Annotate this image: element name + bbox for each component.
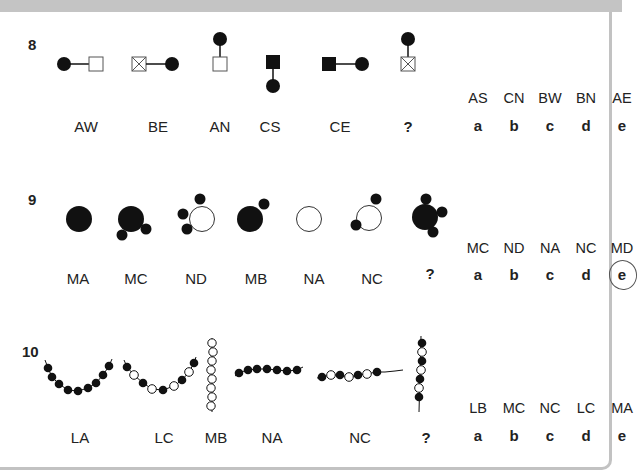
answer-code: CN xyxy=(496,90,532,106)
answer-option-b[interactable]: b xyxy=(496,266,532,283)
figure-label: LA xyxy=(60,429,100,446)
answer-code: LC xyxy=(568,400,604,416)
figure-mc xyxy=(110,200,160,245)
answer-code: MA xyxy=(604,400,640,416)
figure-label-question-mark: ? xyxy=(388,118,428,135)
figure-mb-chain xyxy=(202,335,222,415)
figure-nd xyxy=(172,192,222,242)
answer-option-a[interactable]: a xyxy=(460,266,496,283)
figure-mb xyxy=(232,195,282,240)
answer-option-d[interactable]: d xyxy=(568,427,604,444)
figure-label: NA xyxy=(294,270,334,287)
question-number-9: 9 xyxy=(28,191,36,208)
answer-option-c[interactable]: c xyxy=(532,117,568,134)
question-number-8: 8 xyxy=(28,36,36,53)
figure-cs xyxy=(261,53,285,98)
answer-option-e[interactable]: e xyxy=(604,427,640,444)
answer-code: BN xyxy=(568,90,604,106)
figure-be xyxy=(128,55,188,75)
answer-code: MC xyxy=(496,400,532,416)
figure-label-question-mark: ? xyxy=(406,429,446,446)
figure-label: BE xyxy=(138,118,178,135)
answer-option-b[interactable]: b xyxy=(496,117,532,134)
answer-codes-9: MC ND NA NC MD xyxy=(460,240,640,256)
answer-code: MD xyxy=(604,240,640,256)
figure-label: AW xyxy=(66,118,106,135)
answer-codes-8: AS CN BW BN AE xyxy=(460,90,640,106)
answer-option-a[interactable]: a xyxy=(460,427,496,444)
figure-nc xyxy=(346,192,396,242)
figure-an xyxy=(208,30,232,75)
figure-label: ND xyxy=(176,270,216,287)
figure-lc xyxy=(120,355,200,400)
top-border xyxy=(0,0,622,12)
answer-code: AE xyxy=(604,90,640,106)
figure-na xyxy=(290,200,330,240)
answer-code: ND xyxy=(496,240,532,256)
answer-code: AS xyxy=(460,90,496,106)
answer-code: BW xyxy=(532,90,568,106)
figure-ce xyxy=(318,55,378,75)
figure-label: MB xyxy=(236,270,276,287)
figure-unknown-8 xyxy=(396,30,420,75)
figure-label: NC xyxy=(340,429,380,446)
answer-code: NA xyxy=(532,240,568,256)
answer-option-d[interactable]: d xyxy=(568,117,604,134)
figure-aw xyxy=(50,55,110,75)
figure-nc-chain xyxy=(315,364,405,384)
figure-label: AN xyxy=(200,118,240,135)
answer-option-b[interactable]: b xyxy=(496,427,532,444)
answer-letters-9: a b c d e xyxy=(460,266,640,283)
question-number-10: 10 xyxy=(22,343,39,360)
figure-label: MA xyxy=(58,270,98,287)
figure-unknown-9 xyxy=(404,190,454,245)
figure-label: MB xyxy=(196,429,236,446)
figure-label: CE xyxy=(320,118,360,135)
answer-option-c[interactable]: c xyxy=(532,427,568,444)
answer-option-a[interactable]: a xyxy=(460,117,496,134)
answer-option-c[interactable]: c xyxy=(532,266,568,283)
answer-option-e[interactable]: e xyxy=(604,117,640,134)
answer-option-e-circled[interactable]: e xyxy=(604,266,640,283)
answer-letters-10: a b c d e xyxy=(460,427,640,444)
figure-na-chain xyxy=(232,362,307,382)
answer-letters-8: a b c d e xyxy=(460,117,640,134)
figure-label: LC xyxy=(144,429,184,446)
figure-label: NC xyxy=(352,270,392,287)
figure-ma xyxy=(60,200,100,240)
figure-label: CS xyxy=(250,118,290,135)
answer-codes-10: LB MC NC LC MA xyxy=(460,400,640,416)
figure-label-question-mark: ? xyxy=(410,265,450,282)
answer-code: NC xyxy=(532,400,568,416)
answer-code: LB xyxy=(460,400,496,416)
figure-label: MC xyxy=(116,270,156,287)
figure-unknown-10 xyxy=(411,334,431,414)
answer-code: MC xyxy=(460,240,496,256)
answer-option-d[interactable]: d xyxy=(568,266,604,283)
figure-la xyxy=(40,355,115,400)
figure-label: NA xyxy=(252,429,292,446)
answer-code: NC xyxy=(568,240,604,256)
